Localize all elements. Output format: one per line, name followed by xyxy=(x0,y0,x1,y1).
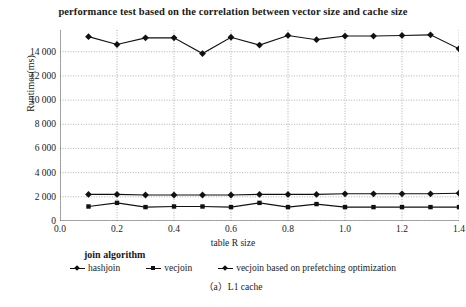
y-axis-tick-labels: 02 0004 0006 0008 00010 00012 00014 000 xyxy=(0,30,56,221)
legend-label: hashjoin xyxy=(88,263,120,273)
y-tick-label: 14 000 xyxy=(30,47,56,57)
data-point-marker xyxy=(285,191,292,198)
y-tick-label: 2 000 xyxy=(35,192,56,202)
y-tick-label: 12 000 xyxy=(30,71,56,81)
data-point-marker xyxy=(199,192,206,199)
data-point-marker xyxy=(313,191,320,198)
data-point-marker xyxy=(400,205,404,209)
plot-area xyxy=(60,30,459,221)
x-tick-label: 0.2 xyxy=(111,224,123,234)
x-tick-label: 0.6 xyxy=(225,224,237,234)
data-point-marker xyxy=(171,34,178,41)
y-tick-label: 4 000 xyxy=(35,168,56,178)
data-point-marker xyxy=(371,205,375,209)
data-point-marker xyxy=(172,204,176,208)
data-point-marker xyxy=(86,204,90,208)
chart-legend: hashjoinvecjoinvecjoin based on prefetch… xyxy=(0,263,466,273)
legend-entry[interactable]: vecjoin based on prefetching optimizatio… xyxy=(218,263,396,273)
x-tick-label: 1.2 xyxy=(396,224,408,234)
data-point-marker xyxy=(399,32,406,39)
data-point-marker xyxy=(115,201,119,205)
data-point-marker xyxy=(457,205,459,209)
y-tick-label: 10 000 xyxy=(30,95,56,105)
plot-svg xyxy=(60,30,459,221)
legend-label: vecjoin based on prefetching optimizatio… xyxy=(236,263,396,273)
data-point-marker xyxy=(343,205,347,209)
legend-marker-icon xyxy=(70,265,85,272)
chart-title: performance test based on the correlatio… xyxy=(0,6,466,17)
data-point-marker xyxy=(85,33,92,40)
x-axis-label: table R size xyxy=(0,238,466,248)
legend-label: vecjoin xyxy=(164,263,192,273)
data-point-marker xyxy=(342,190,349,197)
data-point-marker xyxy=(228,192,235,199)
x-axis-tick-labels: 0.00.20.40.60.81.01.21.4 xyxy=(60,224,459,238)
data-point-marker xyxy=(314,202,318,206)
x-tick-label: 0.4 xyxy=(168,224,180,234)
data-point-marker xyxy=(200,204,204,208)
data-point-marker xyxy=(456,190,459,197)
data-point-marker xyxy=(114,41,121,48)
legend-entry[interactable]: vecjoin xyxy=(146,263,192,273)
data-point-marker xyxy=(229,205,233,209)
y-tick-label: 6 000 xyxy=(35,143,56,153)
data-point-marker xyxy=(171,192,178,199)
data-point-marker xyxy=(427,31,434,38)
data-point-marker xyxy=(143,205,147,209)
data-point-marker xyxy=(456,45,459,52)
chart-container: performance test based on the correlatio… xyxy=(0,0,466,307)
x-tick-label: 1.0 xyxy=(339,224,351,234)
data-point-marker xyxy=(399,190,406,197)
legend-marker-icon xyxy=(146,265,161,272)
x-tick-label: 0.8 xyxy=(282,224,294,234)
data-point-marker xyxy=(256,191,263,198)
legend-title: join algorithm xyxy=(84,249,145,260)
data-point-marker xyxy=(313,36,320,43)
data-point-marker xyxy=(370,190,377,197)
legend-marker-icon xyxy=(218,265,233,272)
data-point-marker xyxy=(199,50,206,57)
data-point-marker xyxy=(428,205,432,209)
data-point-marker xyxy=(370,33,377,40)
data-point-marker xyxy=(256,42,263,49)
data-point-marker xyxy=(142,192,149,199)
data-point-marker xyxy=(285,32,292,39)
data-point-marker xyxy=(257,201,261,205)
data-point-marker xyxy=(342,33,349,40)
legend-entry[interactable]: hashjoin xyxy=(70,263,120,273)
y-tick-label: 8 000 xyxy=(35,119,56,129)
x-tick-label: 0.0 xyxy=(54,224,66,234)
data-point-marker xyxy=(228,34,235,41)
data-point-marker xyxy=(142,34,149,41)
data-point-marker xyxy=(286,205,290,209)
data-point-marker xyxy=(427,190,434,197)
figure-caption: （a）L1 cache xyxy=(0,279,466,293)
x-tick-label: 1.4 xyxy=(453,224,465,234)
